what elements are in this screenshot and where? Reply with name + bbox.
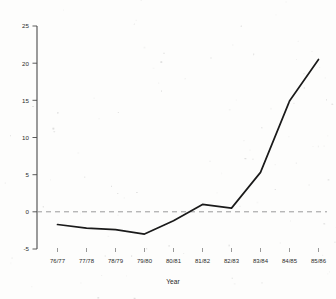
x-tick-label: 81/82: [195, 258, 211, 264]
x-axis-title: Year: [166, 278, 180, 285]
y-tick-label: 25: [22, 22, 29, 29]
x-axis-ticks: [58, 248, 319, 252]
x-tick-label: 85/86: [311, 258, 327, 264]
x-tick-label: 79/80: [137, 258, 153, 264]
y-tick-label: 20: [22, 60, 29, 67]
x-tick-label: 82/83: [224, 258, 240, 264]
y-tick-label: 5: [26, 171, 30, 178]
y-tick-label: 10: [22, 134, 29, 141]
y-tick-label: -5: [23, 245, 29, 252]
data-series-line: [58, 60, 319, 235]
x-tick-label: 78/79: [108, 258, 124, 264]
y-axis-ticks: [33, 26, 38, 249]
x-tick-label: 84/85: [282, 258, 298, 264]
x-tick-label: 80/81: [166, 258, 182, 264]
x-tick-label: 77/78: [79, 258, 95, 264]
x-tick-label: 76/77: [50, 258, 66, 264]
chart-canvas: 25 20 15 10 5 0 -5 76/77 77/78 78/79 79/…: [0, 0, 336, 299]
y-tick-label: 0: [26, 208, 30, 215]
x-tick-label: 83/84: [253, 258, 269, 264]
y-tick-label: 15: [22, 97, 29, 104]
line-chart: 25 20 15 10 5 0 -5 76/77 77/78 78/79 79/…: [0, 0, 336, 299]
